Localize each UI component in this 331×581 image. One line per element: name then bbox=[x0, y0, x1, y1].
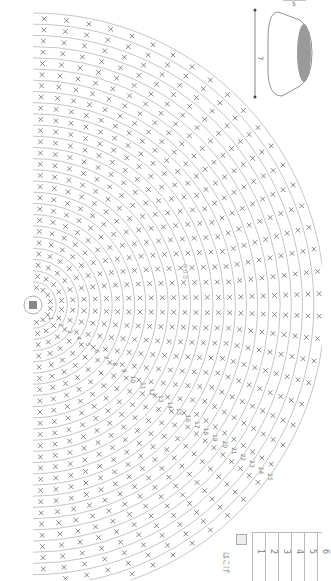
single-crochet-icon bbox=[73, 242, 78, 247]
single-crochet-icon bbox=[115, 257, 120, 262]
single-crochet-icon bbox=[143, 405, 148, 410]
single-crochet-icon bbox=[285, 374, 290, 379]
single-crochet-icon bbox=[220, 216, 225, 221]
single-crochet-icon bbox=[138, 494, 143, 499]
single-crochet-icon bbox=[74, 275, 79, 280]
single-crochet-icon bbox=[58, 532, 63, 537]
single-crochet-icon bbox=[38, 488, 43, 493]
single-crochet-icon bbox=[186, 355, 191, 360]
single-crochet-icon bbox=[151, 352, 156, 357]
single-crochet-icon bbox=[79, 411, 84, 416]
single-crochet-icon bbox=[221, 153, 226, 158]
single-crochet-icon bbox=[38, 399, 43, 404]
single-crochet-icon bbox=[180, 493, 185, 498]
single-crochet-icon bbox=[155, 267, 160, 272]
round-arc bbox=[33, 114, 224, 496]
single-crochet-icon bbox=[230, 395, 235, 400]
single-crochet-icon bbox=[257, 348, 262, 353]
single-crochet-icon bbox=[181, 280, 186, 285]
single-crochet-icon bbox=[63, 381, 68, 386]
single-crochet-icon bbox=[132, 364, 137, 369]
single-crochet-icon bbox=[63, 278, 68, 283]
single-crochet-icon bbox=[147, 281, 152, 286]
single-crochet-icon bbox=[66, 416, 71, 421]
single-crochet-icon bbox=[240, 206, 245, 211]
single-crochet-icon bbox=[109, 270, 114, 275]
single-crochet-icon bbox=[139, 351, 144, 356]
single-crochet-icon bbox=[135, 177, 140, 182]
single-crochet-icon bbox=[123, 502, 128, 507]
single-crochet-icon bbox=[68, 462, 73, 467]
single-crochet-icon bbox=[90, 392, 95, 397]
single-crochet-icon bbox=[237, 327, 242, 332]
single-crochet-icon bbox=[178, 396, 183, 401]
single-crochet-icon bbox=[67, 339, 72, 344]
width-dimension: 5 bbox=[292, 0, 296, 7]
single-crochet-icon bbox=[256, 125, 261, 130]
single-crochet-icon bbox=[53, 164, 58, 169]
single-crochet-icon bbox=[226, 326, 231, 331]
single-crochet-icon bbox=[204, 187, 209, 192]
single-crochet-icon bbox=[151, 253, 156, 258]
single-crochet-icon bbox=[165, 504, 170, 509]
single-crochet-icon bbox=[204, 418, 209, 423]
single-crochet-icon bbox=[51, 397, 56, 402]
single-crochet-icon bbox=[110, 445, 115, 450]
single-crochet-icon bbox=[50, 374, 55, 379]
single-crochet-icon bbox=[103, 498, 108, 503]
single-crochet-icon bbox=[194, 310, 199, 315]
single-crochet-icon bbox=[187, 472, 192, 477]
single-crochet-icon bbox=[68, 287, 73, 292]
single-crochet-icon bbox=[48, 351, 53, 356]
single-crochet-icon bbox=[149, 310, 154, 315]
single-crochet-icon bbox=[200, 459, 205, 464]
single-crochet-icon bbox=[208, 467, 213, 472]
single-crochet-icon bbox=[97, 153, 102, 158]
single-crochet-icon bbox=[161, 225, 166, 230]
single-crochet-icon bbox=[153, 120, 158, 125]
single-crochet-icon bbox=[212, 404, 217, 409]
single-crochet-icon bbox=[156, 407, 161, 412]
single-crochet-icon bbox=[124, 230, 129, 235]
single-crochet-icon bbox=[123, 437, 128, 442]
single-crochet-icon bbox=[274, 234, 279, 239]
single-crochet-icon bbox=[271, 413, 276, 418]
single-crochet-icon bbox=[251, 179, 256, 184]
single-crochet-icon bbox=[146, 553, 151, 558]
single-crochet-icon bbox=[114, 219, 119, 224]
single-crochet-icon bbox=[138, 296, 143, 301]
single-crochet-icon bbox=[59, 543, 64, 548]
single-crochet-icon bbox=[44, 328, 49, 333]
single-crochet-icon bbox=[296, 228, 301, 233]
single-crochet-icon bbox=[146, 53, 151, 58]
single-crochet-icon bbox=[180, 142, 185, 147]
single-crochet-icon bbox=[232, 415, 237, 420]
single-crochet-icon bbox=[101, 222, 106, 227]
single-crochet-icon bbox=[107, 185, 112, 190]
single-crochet-icon bbox=[220, 356, 225, 361]
single-crochet-icon bbox=[78, 66, 83, 71]
single-crochet-icon bbox=[241, 108, 246, 113]
single-crochet-icon bbox=[290, 354, 295, 359]
single-crochet-icon bbox=[67, 439, 72, 444]
single-crochet-icon bbox=[178, 209, 183, 214]
single-crochet-icon bbox=[87, 503, 92, 508]
single-crochet-icon bbox=[115, 309, 120, 314]
single-crochet-icon bbox=[222, 410, 227, 415]
single-crochet-icon bbox=[187, 104, 192, 109]
single-crochet-icon bbox=[169, 409, 174, 414]
single-crochet-icon bbox=[162, 434, 167, 439]
single-crochet-icon bbox=[282, 273, 287, 278]
single-crochet-icon bbox=[160, 295, 165, 300]
legend-swatch bbox=[236, 534, 247, 545]
single-crochet-icon bbox=[190, 64, 195, 69]
single-crochet-icon bbox=[124, 376, 129, 381]
single-crochet-icon bbox=[165, 543, 170, 548]
single-crochet-icon bbox=[261, 294, 266, 299]
single-crochet-icon bbox=[257, 219, 262, 224]
single-crochet-icon bbox=[126, 44, 131, 49]
single-crochet-icon bbox=[239, 295, 244, 300]
single-crochet-icon bbox=[38, 196, 43, 201]
bowl-diagram: 7 5 bbox=[254, 0, 313, 99]
single-crochet-icon bbox=[136, 282, 141, 287]
